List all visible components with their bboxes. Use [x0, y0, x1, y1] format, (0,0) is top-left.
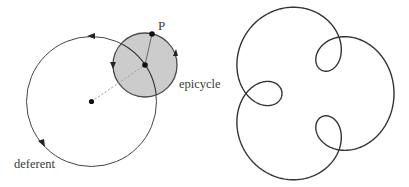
deferent-epicycle-figure: P epicycle deferent [14, 18, 221, 171]
point-p-label: P [158, 18, 165, 33]
epicycle-label: epicycle [179, 77, 221, 91]
deferent-label: deferent [14, 157, 55, 171]
epicycle-center-dot [142, 62, 148, 68]
diagram-canvas: P epicycle deferent [0, 0, 409, 187]
epitrochoid-curve [237, 7, 394, 180]
deferent-top-arrow-icon [87, 33, 95, 39]
epicyclic-path-figure [237, 7, 394, 180]
deferent-center-dot [89, 99, 94, 104]
planet-point-p-dot [149, 31, 155, 37]
